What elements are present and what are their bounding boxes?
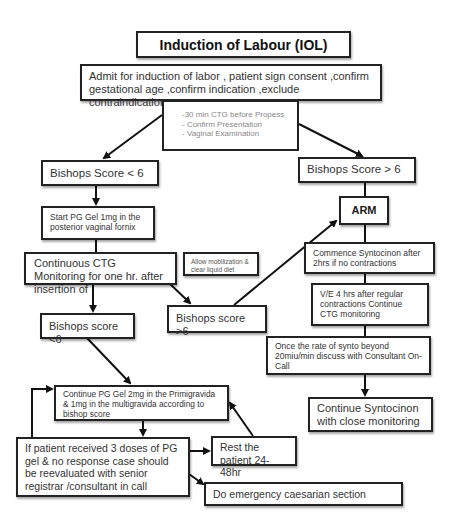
three-doses-text: If patient received 3 doses of PG gel & …: [25, 442, 177, 492]
emergency-cs-box: Do emergency caesarian section: [204, 482, 403, 506]
pre-check-item: - Confirm Presentation: [182, 120, 297, 130]
title-box: Induction of Labour (IOL): [136, 31, 351, 58]
rest-patient-text: Rest the patient 24-48hr: [220, 441, 270, 478]
bishops-gt6-mid-text: Bishops score >6: [176, 312, 245, 337]
synto-rate-box: Once the rate of synto beyond 20miu/min …: [266, 336, 431, 375]
start-pg-gel-box: Start PG Gel 1mg in the posterior vagina…: [41, 206, 155, 240]
allow-mobilization-text: Allow mobilization & clear liquid diet: [191, 258, 249, 273]
continue-syntocinon-box: Continue Syntocinon with close monitorin…: [308, 397, 433, 432]
allow-mobilization-box: Allow mobilization & clear liquid diet: [183, 252, 259, 276]
bishops-gt6-mid-box: Bishops score >6: [167, 305, 267, 333]
pre-check-item: -30 min CTG before Propess: [182, 110, 297, 120]
pre-checks-box: -30 min CTG before Propess - Confirm Pre…: [162, 100, 299, 151]
bishops-lt6-top-text: Bishops Score < 6: [50, 167, 144, 179]
bishops-gt6-right-box: Bishops Score > 6: [298, 157, 416, 183]
continuous-ctg-box: Continuous CTG Monitoring for one hr. af…: [24, 252, 177, 285]
continue-syntocinon-text: Continue Syntocinon with close monitorin…: [317, 402, 420, 427]
bishops-gt6-right-text: Bishops Score > 6: [307, 163, 401, 175]
three-doses-box: If patient received 3 doses of PG gel & …: [16, 437, 190, 497]
bishops-lt6-top-box: Bishops Score < 6: [41, 160, 159, 186]
admit-box: Admit for induction of labor , patient s…: [80, 64, 382, 101]
ve-4hrs-box: V/E 4 hrs after regular contractions Con…: [311, 283, 429, 326]
bishops-lt6-lower-text: Bishops score <6: [49, 320, 118, 345]
arm-text: ARM: [351, 204, 376, 216]
pre-check-item: - Vaginal Examination: [182, 129, 297, 139]
synto-rate-text: Once the rate of synto beyond 20miu/min …: [275, 341, 422, 371]
arm-box: ARM: [339, 196, 389, 225]
page-title: Induction of Labour (IOL): [160, 37, 328, 53]
commence-syntocinon-text: Commence Syntocinon after 2hrs if no con…: [313, 248, 420, 268]
continue-pg-gel-2mg-text: Continue PG Gel 2mg in the Primigravida …: [63, 389, 215, 419]
emergency-cs-text: Do emergency caesarian section: [213, 488, 366, 500]
continue-pg-gel-2mg-box: Continue PG Gel 2mg in the Primigravida …: [54, 385, 229, 421]
continuous-ctg-text: Continuous CTG Monitoring for one hr. af…: [34, 257, 163, 295]
ve-4hrs-text: V/E 4 hrs after regular contractions Con…: [320, 289, 403, 319]
bishops-lt6-lower-box: Bishops score <6: [40, 313, 135, 339]
start-pg-gel-text: Start PG Gel 1mg in the posterior vagina…: [50, 212, 140, 232]
rest-patient-box: Rest the patient 24-48hr: [211, 436, 297, 466]
commence-syntocinon-box: Commence Syntocinon after 2hrs if no con…: [304, 242, 435, 274]
